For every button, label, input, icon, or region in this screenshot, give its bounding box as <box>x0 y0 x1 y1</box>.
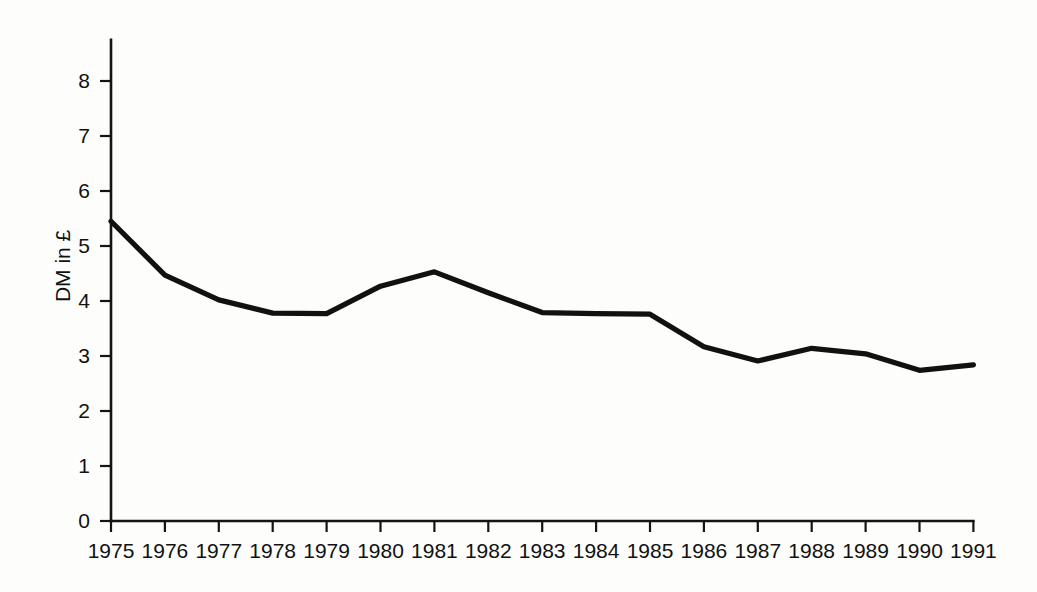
x-tick-label: 1984 <box>573 539 620 562</box>
y-tick-label: 4 <box>78 289 90 312</box>
y-tick-label: 6 <box>78 179 90 202</box>
x-tick-label: 1977 <box>195 539 242 562</box>
data-series-line <box>111 221 973 370</box>
x-tick-label: 1983 <box>519 539 566 562</box>
x-tick-label: 1978 <box>249 539 296 562</box>
x-tick-label: 1991 <box>950 539 997 562</box>
x-tick-label: 1988 <box>788 539 835 562</box>
x-tick-label: 1980 <box>357 539 404 562</box>
y-tick-label: 1 <box>78 454 90 477</box>
x-tick-label: 1989 <box>842 539 889 562</box>
x-tick-label: 1979 <box>303 539 350 562</box>
line-chart: 012345678 197519761977197819791980198119… <box>0 0 1037 592</box>
x-tick-labels: 1975197619771978197919801981198219831984… <box>88 539 997 562</box>
x-tick-label: 1981 <box>411 539 458 562</box>
y-tick-label: 5 <box>78 234 90 257</box>
y-axis <box>100 40 111 521</box>
x-tick-label: 1987 <box>734 539 781 562</box>
x-axis <box>111 521 973 532</box>
y-tick-label: 3 <box>78 344 90 367</box>
x-tick-label: 1986 <box>681 539 728 562</box>
x-tick-label: 1990 <box>896 539 943 562</box>
y-tick-labels: 012345678 <box>78 69 90 532</box>
y-tick-label: 0 <box>78 509 90 532</box>
x-tick-label: 1976 <box>142 539 189 562</box>
y-tick-label: 2 <box>78 399 90 422</box>
y-axis-title: DM in £ <box>51 229 74 302</box>
y-tick-label: 7 <box>78 124 90 147</box>
y-tick-label: 8 <box>78 69 90 92</box>
x-tick-label: 1982 <box>465 539 512 562</box>
chart-canvas: 012345678 197519761977197819791980198119… <box>0 0 1037 592</box>
x-tick-label: 1985 <box>627 539 674 562</box>
x-tick-label: 1975 <box>88 539 135 562</box>
